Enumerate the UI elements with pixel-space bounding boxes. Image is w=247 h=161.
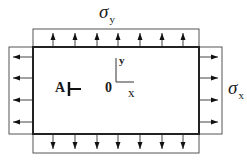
band-bottom [33,134,199,153]
arrow-up-icon [116,33,121,47]
sigma-x-label: σx [228,78,244,101]
band-top [33,29,199,47]
arrow-right-icon [199,76,218,81]
arrow-down-icon [95,134,100,149]
origin-label: 0 [105,81,112,95]
load-arrows [13,33,218,149]
sigma-y-subscript: y [109,13,115,25]
sigma-y-symbol: σ [99,1,108,22]
arrow-left-icon [13,76,33,81]
band-right [199,47,222,134]
axis-x-label: x [128,86,135,99]
arrow-right-icon [199,98,218,103]
arrow-down-icon [116,134,121,149]
arrow-down-icon [181,134,186,149]
sigma-x-subscript: x [238,89,244,101]
arrow-left-icon [13,98,33,103]
sigma-y-label: σy [99,2,115,25]
arrow-up-icon [138,33,143,47]
arrow-left-icon [13,120,33,125]
arrow-right-icon [199,55,218,60]
band-left [9,47,33,134]
arrow-down-icon [73,134,78,149]
axis-y-label: y [119,55,125,66]
arrow-left-icon [13,55,33,60]
sigma-x-symbol: σ [228,77,237,98]
crack-symbol [69,82,81,96]
arrow-up-icon [73,33,78,47]
arrow-up-icon [95,33,100,47]
arrow-down-icon [51,134,56,149]
arrow-right-icon [199,120,218,125]
arrow-up-icon [160,33,165,47]
arrow-down-icon [138,134,143,149]
stress-diagram [0,0,247,161]
point-a-label: A [55,81,65,95]
arrow-up-icon [181,33,186,47]
arrow-up-icon [51,33,56,47]
arrow-down-icon [160,134,165,149]
